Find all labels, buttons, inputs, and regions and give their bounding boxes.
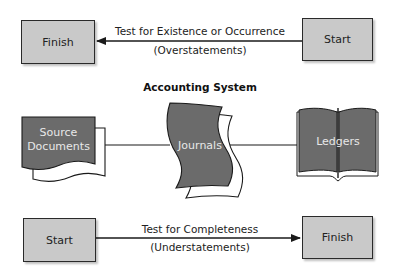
top-start-box: Start (302, 18, 373, 61)
overstatement-sub-label: (Overstatements) (98, 44, 302, 56)
accounting-system-title: Accounting System (140, 81, 260, 93)
understatement-sub-label: (Understatements) (98, 241, 302, 253)
overstatement-test-label: Test for Existence or Occurrence (98, 25, 302, 37)
bottom-start-label: Start (46, 234, 73, 247)
top-finish-label: Finish (42, 36, 73, 49)
source-line-1: Source (22, 126, 95, 140)
ledgers-label: Ledgers (298, 135, 378, 149)
bottom-start-box: Start (23, 218, 96, 262)
top-finish-box: Finish (21, 20, 95, 64)
top-start-label: Start (324, 33, 351, 46)
bottom-finish-box: Finish (302, 216, 373, 259)
source-documents-label: Source Documents (22, 126, 95, 154)
understatement-test-label: Test for Completeness (98, 223, 302, 235)
journals-label: Journals (170, 139, 230, 153)
bottom-finish-label: Finish (322, 231, 353, 244)
source-line-2: Documents (22, 140, 95, 154)
